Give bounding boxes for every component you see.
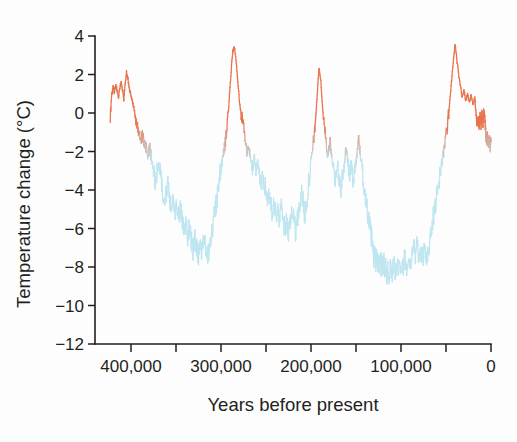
x-tick-label: 400,000 [100, 357, 161, 376]
y-tick-label: −6 [65, 220, 84, 239]
x-tick-label: 100,000 [370, 357, 431, 376]
y-tick-label: −2 [65, 143, 84, 162]
chart-figure: 420−2−4−6−8−10−12 400,000300,000200,0001… [0, 0, 517, 442]
y-axis-title: Temperature change (°C) [13, 100, 34, 308]
x-tick-label: 300,000 [190, 357, 251, 376]
y-tick-label: 4 [75, 27, 84, 46]
x-tick-label: 0 [486, 357, 495, 376]
x-tick-label: 200,000 [280, 357, 341, 376]
y-tick-label: −4 [65, 181, 84, 200]
y-tick-label: −12 [55, 335, 84, 354]
y-tick-label: 0 [75, 104, 84, 123]
temperature-change-line-chart: 420−2−4−6−8−10−12 400,000300,000200,0001… [0, 0, 517, 442]
x-axis-title: Years before present [207, 394, 378, 415]
y-tick-label: 2 [75, 66, 84, 85]
y-tick-label: −10 [55, 297, 84, 316]
y-tick-label: −8 [65, 258, 84, 277]
